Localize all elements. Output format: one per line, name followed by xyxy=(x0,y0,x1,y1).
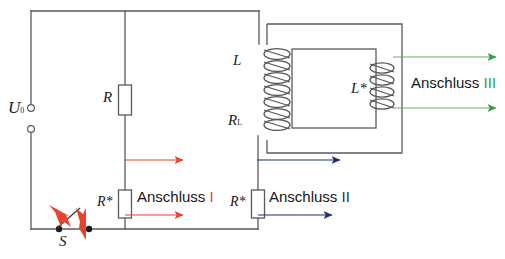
switch-actuation-marker xyxy=(49,205,86,240)
anschluss-2-label: Anschluss II xyxy=(269,188,350,205)
switch-s[interactable] xyxy=(49,205,92,240)
anschluss-3-label: Anschluss III xyxy=(411,74,496,91)
label-resistor-r-star-left: R* xyxy=(97,194,113,210)
voltage-source-terminals xyxy=(28,105,35,133)
label-inductor-l-star: L* xyxy=(351,80,367,97)
resistor-r-star-left-body xyxy=(119,190,132,218)
label-switch-s: S xyxy=(59,233,67,250)
circuit-diagram-canvas: U0 S R R* R* L RL L* Anschluss I Anschlu… xyxy=(0,0,505,259)
label-inductor-l: L xyxy=(233,52,241,69)
resistor-r-body xyxy=(119,85,132,115)
coil-primary-l xyxy=(264,49,290,131)
anschluss-3-numeral: III xyxy=(484,74,497,91)
label-source-u0: U0 xyxy=(8,98,24,118)
resistor-r-star-right-body xyxy=(252,190,265,218)
label-resistor-r: R xyxy=(103,89,112,106)
circuit-schematic-svg xyxy=(0,0,505,259)
anschluss-2-numeral: II xyxy=(342,188,350,205)
label-resistor-r-star-right: R* xyxy=(230,194,246,210)
label-resistor-rl: RL xyxy=(228,112,242,129)
anschluss-1-numeral: I xyxy=(210,188,214,205)
anschluss-1-label: Anschluss I xyxy=(137,188,214,205)
